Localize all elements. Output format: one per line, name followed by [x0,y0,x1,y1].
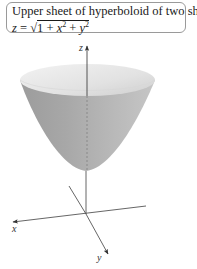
y-axis-label: y [96,252,102,263]
y-axis-back [69,186,86,214]
z-axis-label: z [78,42,83,53]
y-axis [86,214,108,254]
hyperboloid-rim-interior [20,64,155,96]
x-axis-label: x [11,223,17,234]
hyperboloid-figure: z x y [0,0,197,269]
x-axis [13,206,146,222]
